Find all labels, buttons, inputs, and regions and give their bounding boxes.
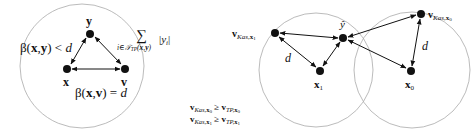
node-y (86, 30, 94, 38)
right-panel: vKas,x1 ŷ x1 vKas,x0 x0 d d vKas,x0 ≥ vT… (190, 9, 470, 128)
label-x1: x1 (314, 78, 324, 92)
sum-annotation: ∑ i∈𝒯TP(x,y) |yi| (117, 27, 170, 52)
node-v (121, 65, 129, 73)
annotation-beta-xy: β(x,y) < d (20, 40, 72, 55)
inequalities: vKas,x0 ≥ vTP,x0 vKas,x1 ≥ vTP,x1 (190, 102, 241, 126)
edge-y-x (71, 38, 86, 64)
label-yhat: ŷ (339, 18, 345, 30)
label-vkasx0: vKas,x0 (428, 9, 452, 22)
annotation-beta-xv: β(x,v) = d (75, 85, 127, 100)
node-x1 (316, 67, 324, 75)
inequality-x0: vKas,x0 ≥ vTP,x0 (190, 102, 241, 114)
sum-term: |yi| (159, 33, 170, 47)
edge-label-d-right: d (422, 39, 429, 53)
edge-vkasx0-x0 (412, 19, 420, 66)
diagram-canvas: y x v β(x,y) < d β(x,v) = d ∑ i∈𝒯TP(x,y)… (0, 0, 476, 134)
node-x (63, 65, 71, 73)
edge-label-d-left: d (285, 51, 292, 65)
sum-subscript: i∈𝒯TP(x,y) (117, 43, 152, 52)
node-vkasx0 (417, 10, 425, 18)
label-x: x (63, 75, 69, 89)
left-panel: y x v β(x,y) < d β(x,v) = d ∑ i∈𝒯TP(x,y)… (20, 4, 170, 128)
edge-yhat-vkasx0 (348, 15, 416, 37)
edge-yhat-x0 (348, 40, 406, 68)
inequality-x1: vKas,x1 ≥ vTP,x1 (190, 114, 241, 126)
label-y: y (86, 14, 92, 28)
label-x0: x0 (405, 78, 415, 92)
node-x0 (407, 67, 415, 75)
sum-symbol: ∑ (136, 27, 147, 44)
label-vkasx1: vKas,x1 (232, 28, 256, 41)
edge-yhat-x1 (323, 42, 340, 66)
node-vkasx1 (271, 29, 279, 37)
edge-vkasx1-yhat (280, 33, 338, 38)
node-yhat (339, 34, 347, 42)
